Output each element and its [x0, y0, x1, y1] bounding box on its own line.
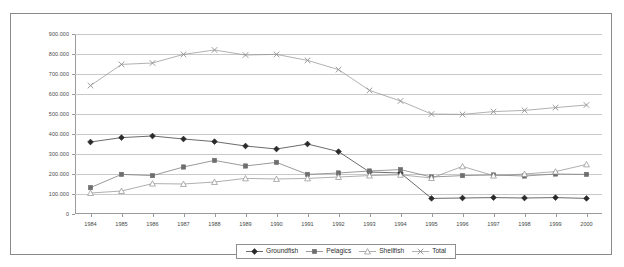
data-point: [212, 158, 216, 162]
data-point: [274, 160, 278, 164]
x-tick-mark: [122, 214, 123, 217]
data-point: [181, 165, 185, 169]
x-tick-mark: [525, 214, 526, 217]
data-point: [212, 139, 218, 145]
data-point: [367, 88, 373, 94]
y-axis-tick-label: 200.000: [17, 171, 69, 177]
legend-item-shellfish: Shellfish: [359, 247, 404, 256]
chart-legend: GroundfishPelagicsShellfishTotal: [236, 244, 456, 259]
y-axis-tick-label: 0: [17, 211, 69, 217]
legend-item-pelagics: Pelagics: [306, 247, 351, 256]
x-tick-mark: [401, 214, 402, 217]
x-tick-mark: [246, 214, 247, 217]
data-point: [398, 98, 404, 104]
data-point: [584, 162, 590, 167]
data-point: [274, 146, 280, 152]
series-groundfish: [88, 133, 590, 201]
x-tick-mark: [432, 214, 433, 217]
data-point: [88, 185, 92, 189]
legend-item-groundfish: Groundfish: [246, 247, 298, 256]
data-point: [243, 164, 247, 168]
plot-area: 0100.000200.000300.000400.000500.000600.…: [75, 34, 602, 214]
series-line: [91, 50, 587, 114]
data-point: [88, 139, 94, 145]
open-triangle-icon: [359, 247, 376, 256]
y-axis-tick-label: 500.000: [17, 111, 69, 117]
data-point: [150, 133, 156, 139]
legend-label: Shellfish: [379, 248, 404, 255]
y-tick-mark: [72, 214, 75, 215]
data-point: [522, 195, 528, 201]
data-point: [584, 196, 590, 202]
data-point: [398, 167, 402, 171]
data-point: [553, 195, 559, 201]
x-tick-mark: [215, 214, 216, 217]
x-tick-mark: [91, 214, 92, 217]
series-total: [88, 47, 590, 117]
series-line: [91, 136, 587, 198]
data-point: [460, 195, 466, 201]
filled-square-icon: [306, 247, 323, 256]
data-point: [243, 143, 249, 149]
legend-label: Pelagics: [326, 248, 351, 255]
y-axis-tick-label: 400.000: [17, 131, 69, 137]
x-tick-mark: [339, 214, 340, 217]
x-tick-mark: [153, 214, 154, 217]
y-axis-tick-label: 800.000: [17, 51, 69, 57]
x-tick-mark: [277, 214, 278, 217]
data-point: [460, 164, 466, 169]
data-point: [150, 173, 154, 177]
x-axis-tick-label: 2000: [567, 221, 607, 227]
series-shellfish: [88, 162, 590, 196]
legend-label: Groundfish: [266, 248, 298, 255]
y-axis-tick-label: 300.000: [17, 151, 69, 157]
x-tick-mark: [463, 214, 464, 217]
legend-label: Total: [432, 248, 446, 255]
x-tick-mark: [370, 214, 371, 217]
x-tick-mark: [556, 214, 557, 217]
data-point: [119, 172, 123, 176]
data-point: [491, 195, 497, 201]
data-point: [584, 172, 588, 176]
cross-icon: [412, 247, 429, 256]
series-layer: [75, 34, 602, 214]
filled-diamond-icon: [246, 247, 263, 256]
data-point: [336, 149, 342, 155]
data-point: [305, 58, 311, 64]
x-tick-mark: [587, 214, 588, 217]
data-point: [460, 173, 464, 177]
data-point: [336, 67, 342, 73]
y-axis-tick-label: 900.000: [17, 31, 69, 37]
x-tick-mark: [494, 214, 495, 217]
y-axis-tick-label: 600.000: [17, 91, 69, 97]
legend-item-total: Total: [412, 247, 446, 256]
data-point: [181, 136, 187, 142]
x-tick-mark: [184, 214, 185, 217]
y-axis-tick-label: 700.000: [17, 71, 69, 77]
data-point: [119, 135, 125, 141]
y-axis-tick-label: 100.000: [17, 191, 69, 197]
x-tick-mark: [308, 214, 309, 217]
data-point: [305, 141, 311, 147]
chart-frame: 0100.000200.000300.000400.000500.000600.…: [10, 13, 612, 255]
data-point: [88, 83, 94, 89]
